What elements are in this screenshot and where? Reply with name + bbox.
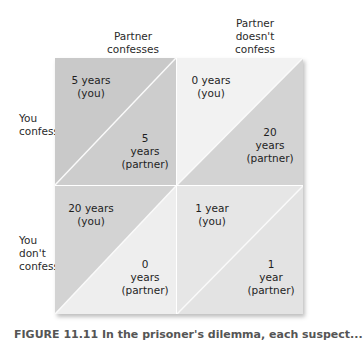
you-sentence: 0 years (you) [183,74,239,100]
partner-sentence: 5 years (partner) [115,132,175,171]
label-line: 5 [115,132,175,145]
label-line: 1 year [187,202,237,215]
label-line: 5 years [63,74,119,87]
label-line: (you) [187,215,237,228]
label-line: years [115,271,175,284]
you-sentence: 20 years (you) [61,202,121,228]
column-header-partner-doesnt-confess: Partner doesn't confess [210,17,300,56]
label-line: (you) [61,215,121,228]
column-header-partner-confesses: Partner confesses [88,30,178,56]
header-line: confess [210,43,300,56]
label-line: years [239,139,301,152]
label-line: (partner) [239,152,301,165]
partner-sentence: 1 year (partner) [241,258,301,297]
label-line: years [115,145,175,158]
header-line: doesn't [210,30,300,43]
header-line: Partner [88,30,178,43]
label-line: year [241,271,301,284]
header-line: confess [19,125,59,138]
header-line: confesses [88,43,178,56]
partner-sentence: 20 years (partner) [239,126,301,165]
cell-you-confess-partner-not: 0 years (you) 20 years (partner) [177,58,303,185]
label-line: (partner) [115,284,175,297]
label-line: (partner) [241,284,301,297]
header-line: confess [19,260,59,273]
header-line: You [19,112,59,125]
partner-sentence: 0 years (partner) [115,258,175,297]
cell-neither-confess: 1 year (you) 1 year (partner) [177,186,303,314]
label-line: 0 years [183,74,239,87]
label-line: 1 [241,258,301,271]
row-header-you-dont-confess: You don't confess [19,234,59,273]
you-sentence: 5 years (you) [63,74,119,100]
cell-partner-confess-you-not: 20 years (you) 0 years (partner) [55,186,176,314]
header-line: You [19,234,59,247]
label-line: 0 [115,258,175,271]
header-line: Partner [210,17,300,30]
you-sentence: 1 year (you) [187,202,237,228]
header-line: don't [19,247,59,260]
label-line: 20 [239,126,301,139]
row-header-you-confess: You confess [19,112,59,138]
label-line: (you) [183,87,239,100]
cell-both-confess: 5 years (you) 5 years (partner) [55,58,176,185]
label-line: (you) [63,87,119,100]
label-line: 20 years [61,202,121,215]
figure-caption: FIGURE 11.11 In the prisoner's dilemma, … [14,328,363,341]
label-line: (partner) [115,158,175,171]
payoff-matrix: 5 years (you) 5 years (partner) 0 years … [55,58,303,314]
